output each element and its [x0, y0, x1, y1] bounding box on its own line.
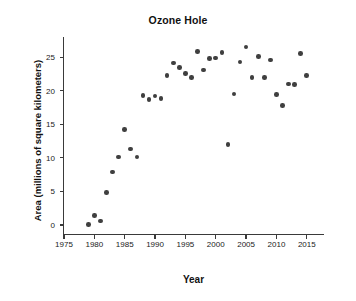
data-point [183, 71, 188, 76]
data-point [274, 92, 279, 97]
x-tick-mark [124, 235, 125, 239]
data-point [98, 219, 103, 224]
y-tick-label: 10 [46, 153, 55, 162]
x-tick-mark [185, 235, 186, 239]
x-tick-label: 2015 [298, 240, 316, 249]
y-tick-mark [60, 224, 64, 225]
data-point [92, 213, 97, 218]
data-point [250, 75, 255, 80]
y-tick-label: 20 [46, 86, 55, 95]
data-point [116, 155, 121, 160]
y-tick-mark [60, 157, 64, 158]
x-axis-title: Year [63, 274, 324, 285]
chart-title: Ozone Hole [0, 14, 356, 26]
data-point [256, 54, 261, 59]
data-point [280, 103, 285, 108]
data-point [201, 68, 206, 73]
data-point [213, 56, 218, 61]
x-tick-label: 2000 [207, 240, 225, 249]
data-point [153, 94, 158, 99]
y-tick-mark [60, 57, 64, 58]
data-point [110, 170, 115, 175]
data-point [262, 75, 267, 80]
data-point [86, 222, 91, 227]
data-point [147, 97, 152, 102]
data-point [226, 142, 231, 147]
y-tick-label: 15 [46, 120, 55, 129]
data-point [159, 96, 164, 101]
data-point [220, 50, 225, 55]
data-point [195, 49, 200, 54]
scatter-plot-area [64, 37, 324, 234]
x-tick-mark [63, 235, 64, 239]
x-tick-label: 1995 [176, 240, 194, 249]
y-tick-mark [60, 124, 64, 125]
data-point [135, 155, 140, 160]
data-point [122, 127, 127, 132]
data-point [298, 51, 303, 56]
x-tick-label: 1975 [55, 240, 73, 249]
y-tick-mark [60, 90, 64, 91]
x-tick-mark [306, 235, 307, 239]
x-tick-mark [215, 235, 216, 239]
data-point [141, 93, 146, 98]
data-point [104, 190, 109, 195]
x-tick-mark [154, 235, 155, 239]
x-tick-mark [245, 235, 246, 239]
data-point [238, 60, 243, 65]
y-tick-mark [60, 191, 64, 192]
plot-frame: 197519801985199019952000200520102015 051… [63, 37, 324, 235]
data-point [268, 58, 273, 63]
data-point [244, 45, 249, 50]
data-point [292, 82, 297, 87]
data-point [177, 65, 182, 70]
data-point [189, 75, 194, 80]
data-point [232, 92, 237, 97]
data-point [304, 73, 309, 78]
data-point [165, 73, 170, 78]
y-axis-title: Area (millions of square kilometers) [32, 41, 43, 241]
x-tick-mark [94, 235, 95, 239]
x-tick-label: 2005 [237, 240, 255, 249]
data-point [128, 147, 133, 152]
data-point [207, 56, 212, 61]
x-tick-mark [276, 235, 277, 239]
x-tick-label: 1985 [116, 240, 134, 249]
x-tick-label: 1980 [85, 240, 103, 249]
x-tick-label: 2010 [268, 240, 286, 249]
data-point [286, 82, 291, 87]
y-tick-label: 5 [51, 187, 55, 196]
y-tick-label: 0 [51, 220, 55, 229]
y-tick-label: 25 [46, 53, 55, 62]
x-tick-label: 1990 [146, 240, 164, 249]
chart-figure: Ozone Hole 19751980198519901995200020052… [0, 0, 356, 301]
data-point [171, 61, 176, 66]
